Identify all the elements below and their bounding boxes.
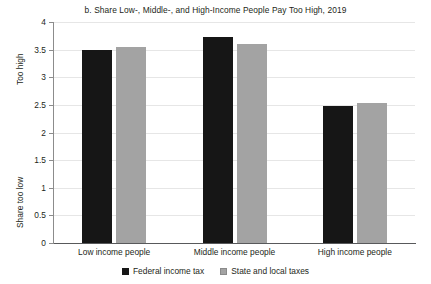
- y-axis-tick: [49, 188, 53, 189]
- bar: [82, 50, 112, 243]
- y-axis-tick-label: 0: [2, 238, 46, 248]
- y-axis-tick-label: 2.5: [2, 100, 46, 110]
- x-axis-category-label: Middle income people: [194, 247, 275, 257]
- y-axis-tick: [49, 215, 53, 216]
- y-axis-tick-labels: 00.511.522.533.54: [0, 0, 46, 284]
- y-axis-tick: [49, 105, 53, 106]
- y-axis-tick: [49, 243, 53, 244]
- legend-swatch-icon: [220, 268, 227, 275]
- bar: [203, 37, 233, 243]
- bar: [323, 106, 353, 243]
- legend-swatch-icon: [122, 268, 129, 275]
- y-axis-tick-label: 2: [2, 128, 46, 138]
- bar: [116, 47, 146, 243]
- bar: [237, 44, 267, 243]
- chart-figure: b. Share Low-, Middle-, and High-Income …: [0, 0, 431, 284]
- legend-item[interactable]: State and local taxes: [220, 266, 309, 276]
- plot-area: [54, 22, 415, 243]
- y-axis-tick: [49, 77, 53, 78]
- gridline: [54, 22, 415, 23]
- x-axis-category-label: High income people: [318, 247, 392, 257]
- x-axis-category-label: Low income people: [78, 247, 150, 257]
- bar: [357, 103, 387, 243]
- y-axis-tick: [49, 133, 53, 134]
- y-axis-tick-label: 1: [2, 183, 46, 193]
- legend-label: State and local taxes: [231, 266, 309, 276]
- y-axis-tick-label: 3.5: [2, 45, 46, 55]
- legend-label: Federal income tax: [133, 266, 204, 276]
- chart-title: b. Share Low-, Middle-, and High-Income …: [0, 5, 431, 15]
- y-axis-tick-label: 4: [2, 17, 46, 27]
- legend-item[interactable]: Federal income tax: [122, 266, 204, 276]
- y-axis-tick: [49, 22, 53, 23]
- y-axis-tick-label: 0.5: [2, 210, 46, 220]
- y-axis-tick-label: 3: [2, 72, 46, 82]
- y-axis-tick-label: 1.5: [2, 155, 46, 165]
- y-axis-tick: [49, 160, 53, 161]
- y-axis-tick: [49, 50, 53, 51]
- x-axis-line: [54, 243, 416, 244]
- chart-legend: Federal income taxState and local taxes: [0, 266, 431, 276]
